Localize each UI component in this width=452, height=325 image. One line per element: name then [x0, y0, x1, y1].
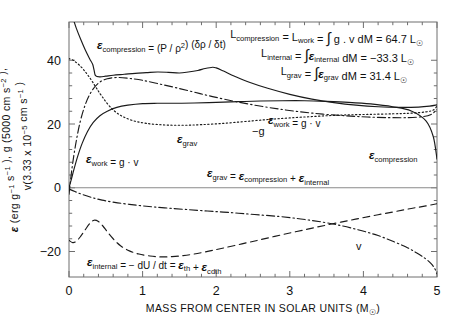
- x-tick-label: 0: [66, 284, 73, 298]
- plot-svg: 01234540200−20 Lcompression = Lwork = ∫ …: [0, 0, 452, 325]
- y-tick-label: 20: [47, 118, 61, 132]
- x-axis-title: MASS FROM CENTER IN SOLAR UNITS (M☉): [146, 302, 380, 317]
- x-tick-label: 1: [139, 284, 146, 298]
- y-tick-label: 40: [47, 54, 61, 68]
- annotation-layer: Lcompression = Lwork = ∫ g . v dM = 64.7…: [86, 28, 423, 276]
- figure-root: 01234540200−20 Lcompression = Lwork = ∫ …: [0, 0, 452, 325]
- curve-label-v-label: v: [356, 240, 362, 252]
- curve-label-eps-internal-def: εinternal = − dU / dt = εth + εcdth: [87, 256, 221, 276]
- x-tick-label: 4: [360, 284, 367, 298]
- curve-label-eps-grav-sum: εgrav = εcompression + εinternal: [207, 167, 329, 187]
- x-tick-label: 5: [434, 284, 441, 298]
- x-tick-label: 3: [286, 284, 293, 298]
- y-tick-label: 0: [54, 181, 61, 195]
- luminosity-l-internal: Linternal = ∫εinternal dM = −33.3 L☉: [261, 46, 414, 67]
- svg-text:v(3.33 x 10−5 cm s−1 ): v(3.33 x 10−5 cm s−1 ): [13, 82, 33, 190]
- curve-label-eps-grav-label: εgrav: [177, 133, 197, 148]
- curve-epsilon-grav: [69, 59, 437, 126]
- curve-label-minus-g-label: −g: [252, 125, 265, 137]
- curve-label-eps-compression-right: εcompression: [369, 149, 418, 164]
- luminosity-l-compression: Lcompression = Lwork = ∫ g . v dM = 64.7…: [230, 28, 423, 48]
- luminosity-l-grav: Lgrav = ∫εgrav dM = 31.4 L☉: [281, 64, 407, 85]
- y-axis-title: ε (erg g−1 s−1 ), g (5000 cm s−2 ),v(3.3…: [0, 68, 33, 233]
- curve-label-eps-work-def: εwork = g · v: [86, 153, 138, 168]
- y-tick-label: −20: [40, 245, 61, 259]
- curve-label-eps-compression-def: εcompression = (P / ρ2) (δρ / δt): [97, 39, 226, 54]
- curve-epsilon-internal: [69, 204, 437, 257]
- x-tick-label: 2: [213, 284, 220, 298]
